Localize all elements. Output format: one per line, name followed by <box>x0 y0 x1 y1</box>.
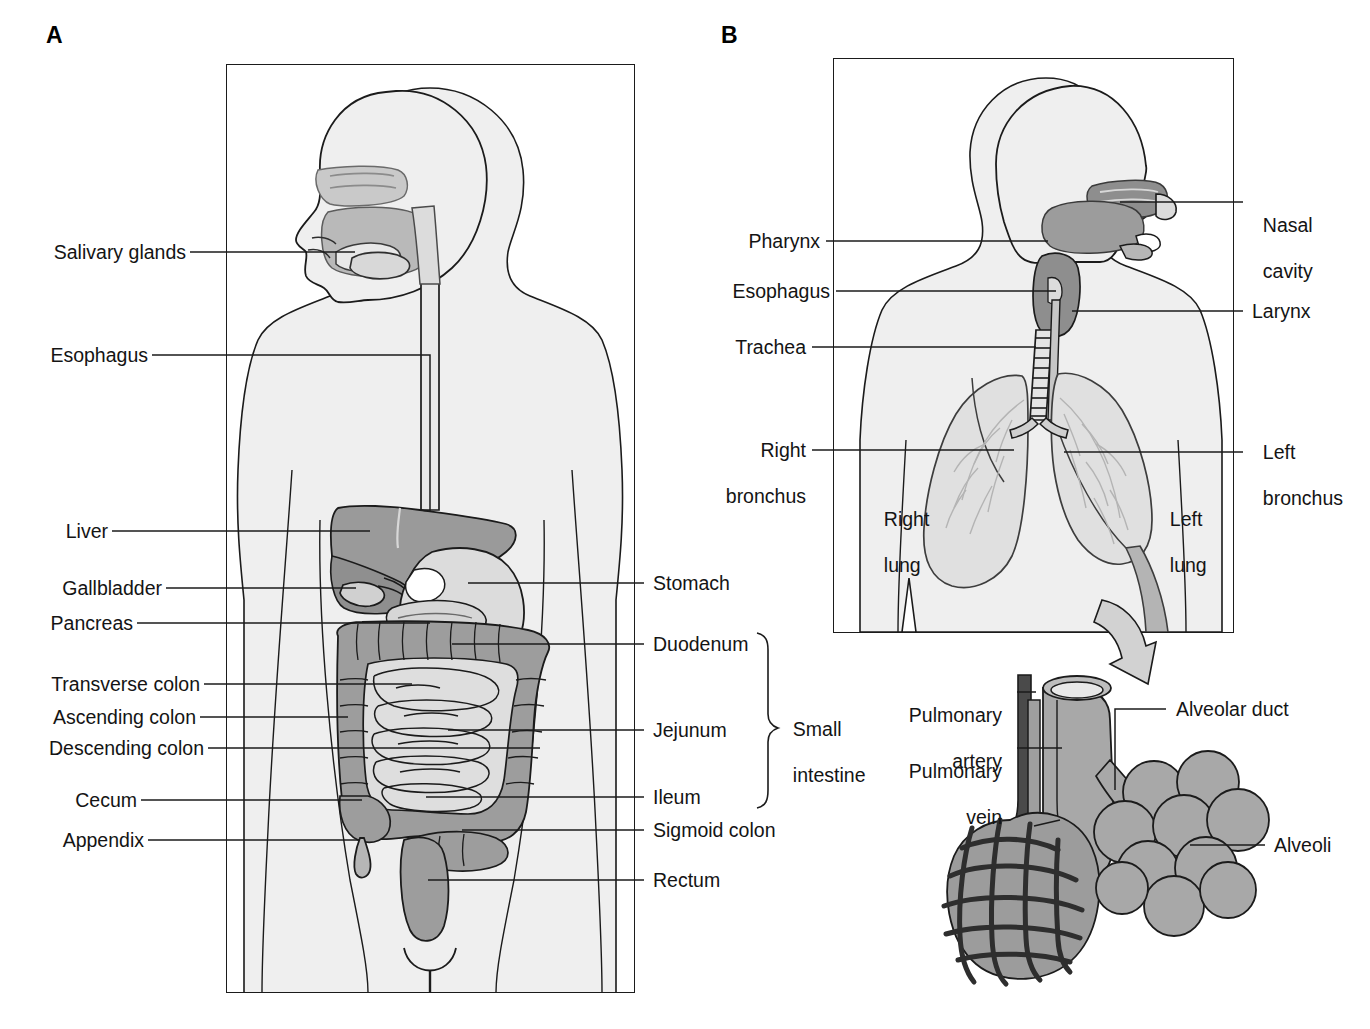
label-pulmonary-vein: Pulmonary vein <box>820 737 1002 829</box>
label-alveolar-duct: Alveolar duct <box>1176 698 1289 721</box>
label-alveoli: Alveoli <box>1274 834 1331 857</box>
label-pulmonary-vein-line1: Pulmonary <box>909 760 1002 782</box>
label-pulmonary-artery-line1: Pulmonary <box>909 704 1002 726</box>
alveoli-detail-artwork <box>0 0 1370 1029</box>
magnify-arrow-icon <box>1094 600 1156 684</box>
bronchiole-lumen-inner <box>1051 682 1103 698</box>
label-pulmonary-vein-line2: vein <box>966 806 1002 828</box>
capillary-alveolar-sac <box>944 813 1099 984</box>
